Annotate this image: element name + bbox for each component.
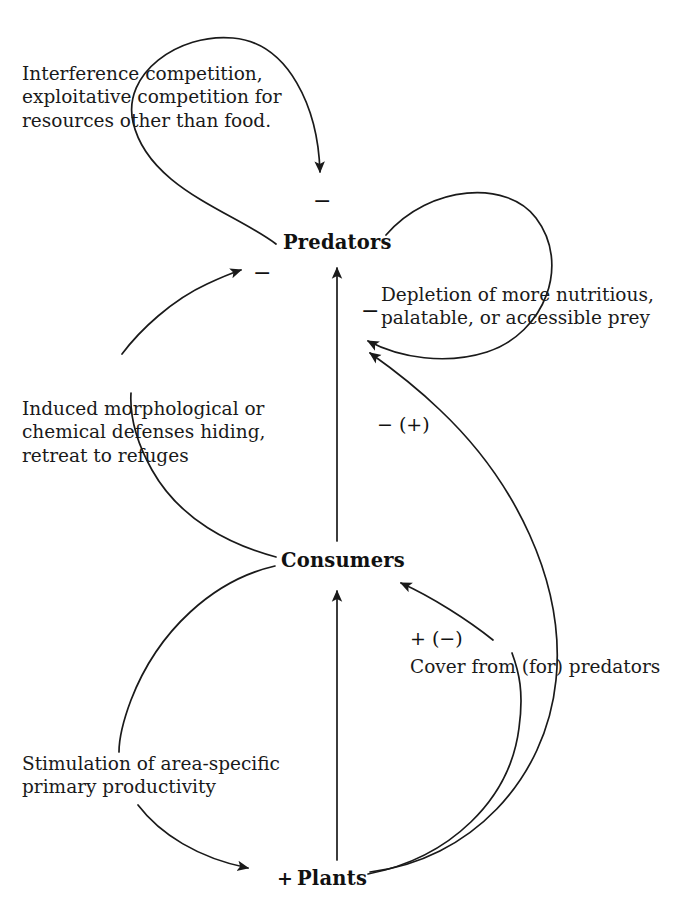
causal-loop-diagram: Predators Consumers Plants Interference …: [0, 0, 674, 924]
edge-consumers-to-plants-stimulation-head: [138, 805, 248, 868]
sign-depletion-minus: −: [361, 300, 379, 322]
edge-plants-to-consumers-cover: [368, 653, 521, 874]
node-predators[interactable]: Predators: [283, 231, 392, 254]
sign-plants-to-consumers: + (−): [410, 627, 463, 649]
caption-induced-defenses: Induced morphological or chemical defens…: [22, 397, 312, 467]
sign-interference-minus: −: [313, 190, 331, 212]
sign-plants-incoming-plus: +: [277, 867, 293, 889]
sign-plants-to-predators: − (+): [377, 413, 430, 435]
edge-consumers-to-plants-stimulation: [119, 566, 275, 752]
caption-cover-from-predators: Cover from (for) predators: [410, 655, 674, 678]
edge-consumers-to-predators-defenses-head: [122, 270, 241, 354]
sign-induced-defenses-minus: −: [253, 262, 271, 284]
caption-interference-competition: Interference competition, exploitative c…: [22, 62, 322, 132]
caption-stimulation-productivity: Stimulation of area-specific primary pro…: [22, 752, 312, 799]
node-consumers[interactable]: Consumers: [281, 549, 405, 572]
caption-depletion-of-prey: Depletion of more nutritious, palatable,…: [381, 283, 671, 330]
edge-predators-self-loop-right: [368, 193, 552, 359]
node-plants[interactable]: Plants: [297, 867, 367, 890]
